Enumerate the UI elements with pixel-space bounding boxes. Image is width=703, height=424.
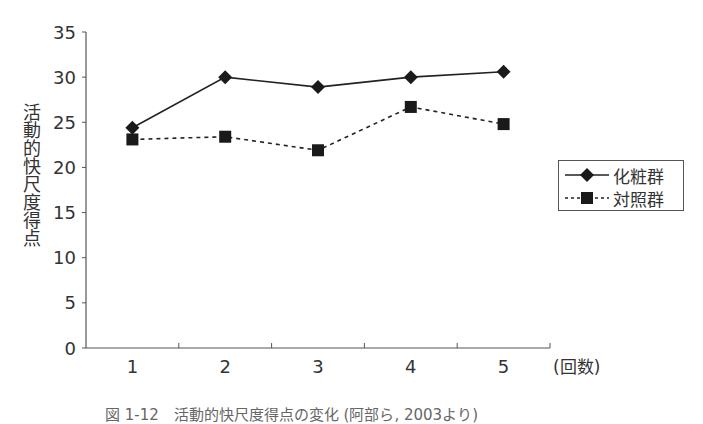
- legend-label: 化粧群: [613, 163, 664, 188]
- square-dashed-line-icon: [565, 190, 609, 206]
- figure-caption: 図 1-12 活動的快尺度得点の変化 (阿部ら, 2003より): [105, 403, 478, 424]
- y-tick-label: 20: [53, 157, 76, 178]
- x-tick-label: 4: [405, 356, 416, 377]
- legend-item-control: 対照群: [565, 187, 664, 209]
- diamond-marker: [125, 121, 139, 135]
- series-layer: [125, 65, 510, 157]
- diamond-solid-line-icon: [565, 167, 609, 183]
- x-tick-label: 1: [127, 356, 138, 377]
- series-cosmetic: [125, 65, 510, 135]
- y-tick-label: 5: [65, 292, 76, 313]
- square-marker: [312, 144, 324, 156]
- y-tick-label: 15: [53, 202, 76, 223]
- diamond-marker: [218, 70, 232, 84]
- square-marker: [498, 118, 510, 130]
- legend: 化粧群 対照群: [558, 160, 684, 211]
- series-control: [126, 101, 509, 156]
- square-marker: [219, 131, 231, 143]
- legend-label: 対照群: [613, 186, 664, 211]
- diamond-marker: [404, 70, 418, 84]
- series-line: [132, 107, 503, 150]
- x-tick-label: 2: [219, 356, 230, 377]
- y-tick-label: 0: [65, 338, 76, 359]
- y-tick-label: 35: [53, 22, 76, 43]
- y-axis-title: 活動的快尺度得点: [19, 103, 41, 247]
- y-tick-label: 10: [53, 247, 76, 268]
- y-tick-label: 30: [53, 67, 76, 88]
- legend-item-cosmetic: 化粧群: [565, 164, 664, 186]
- diamond-marker: [311, 80, 325, 94]
- x-axis-unit-label: (回数): [553, 353, 600, 378]
- x-tick-label: 5: [498, 356, 509, 377]
- x-tick-label: 3: [312, 356, 323, 377]
- diamond-marker: [497, 65, 511, 79]
- y-tick-label: 25: [53, 112, 76, 133]
- axes: 0510152025303512345: [53, 22, 550, 378]
- square-marker: [126, 133, 138, 145]
- square-marker: [405, 101, 417, 113]
